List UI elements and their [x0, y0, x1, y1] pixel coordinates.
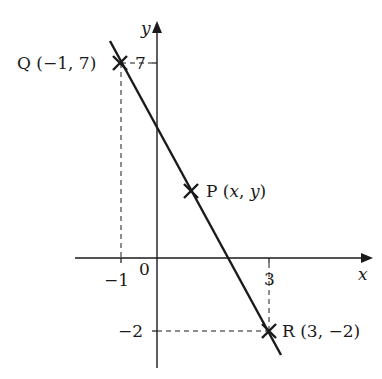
x-axis-arrow-icon — [361, 253, 373, 263]
x-tick-label-3: 3 — [264, 269, 275, 289]
coordinate-diagram: y x 0 −1 3 7 −2 Q (−1, 7) P (x, y) R (3,… — [0, 0, 382, 379]
y-axis-label: y — [140, 18, 151, 38]
point-p-marker-icon — [184, 184, 198, 198]
y-axis-arrow-icon — [152, 21, 162, 33]
point-r-label: R (3, −2) — [282, 321, 360, 341]
origin-label: 0 — [139, 259, 150, 279]
x-tick-label-neg1: −1 — [104, 270, 129, 290]
point-q-label: Q (−1, 7) — [17, 53, 96, 73]
y-tick-label-7: 7 — [135, 53, 146, 73]
point-p-label: P (x, y) — [206, 181, 266, 201]
y-tick-label-neg2: −2 — [118, 321, 143, 341]
x-axis-label: x — [358, 264, 368, 284]
